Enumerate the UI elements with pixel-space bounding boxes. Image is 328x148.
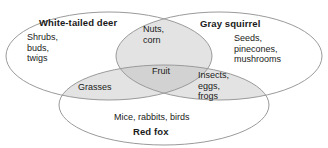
set-title-gray-squirrel: Gray squirrel bbox=[200, 18, 260, 29]
region-deer-squirrel-items: Nuts, corn bbox=[143, 24, 164, 45]
region-deer-only-items: Shrubs, buds, twigs bbox=[27, 32, 58, 64]
region-all-three-items: Fruit bbox=[152, 66, 170, 77]
region-deer-fox-items: Grasses bbox=[78, 82, 112, 93]
region-squirrel-fox-items: Insects, eggs, frogs bbox=[198, 70, 229, 102]
set-title-red-fox: Red fox bbox=[133, 126, 169, 137]
region-squirrel-only-items: Seeds, pinecones, mushrooms bbox=[234, 33, 281, 65]
venn-diagram: White-tailed deer Gray squirrel Red fox … bbox=[0, 0, 328, 148]
set-title-white-tailed-deer: White-tailed deer bbox=[39, 17, 117, 28]
region-fox-only-items: Mice, rabbits, birds bbox=[114, 112, 190, 123]
